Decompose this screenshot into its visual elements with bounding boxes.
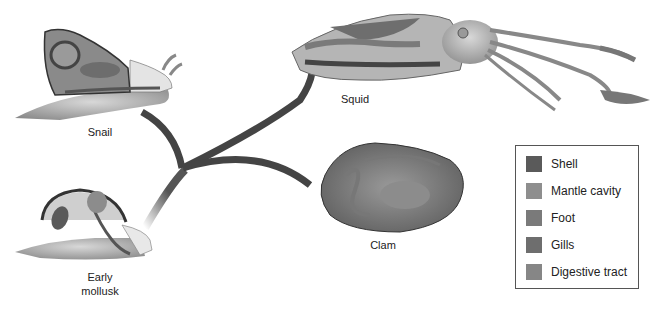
early-mollusk-label-line2: mollusk	[70, 284, 130, 298]
squid-label: Squid	[335, 92, 375, 106]
legend-item-gills: Gills	[526, 237, 574, 253]
clam-illustration	[321, 143, 463, 232]
legend-label: Foot	[551, 211, 575, 225]
gills-swatch	[526, 237, 542, 253]
shell-swatch	[526, 156, 542, 172]
snail-illustration	[15, 30, 182, 120]
legend-item-foot: Foot	[526, 210, 575, 226]
legend-item-shell: Shell	[526, 156, 578, 172]
snail-label: Snail	[80, 125, 120, 139]
early-mollusk-illustration	[15, 190, 152, 260]
legend-item-digestive-tract: Digestive tract	[526, 264, 627, 280]
legend-label: Gills	[551, 238, 574, 252]
legend-label: Shell	[551, 157, 578, 171]
clam-label: Clam	[363, 238, 403, 252]
mantle-cavity-swatch	[526, 183, 542, 199]
foot-swatch	[526, 210, 542, 226]
legend-label: Mantle cavity	[551, 184, 621, 198]
legend-label: Digestive tract	[551, 265, 627, 279]
legend-item-mantle-cavity: Mantle cavity	[526, 183, 621, 199]
early-mollusk-label-line1: Early	[70, 270, 130, 284]
digestive-tract-swatch	[526, 264, 542, 280]
legend: Shell Mantle cavity Foot Gills Digestive…	[515, 145, 639, 289]
early-mollusk-label: Early mollusk	[70, 270, 130, 298]
